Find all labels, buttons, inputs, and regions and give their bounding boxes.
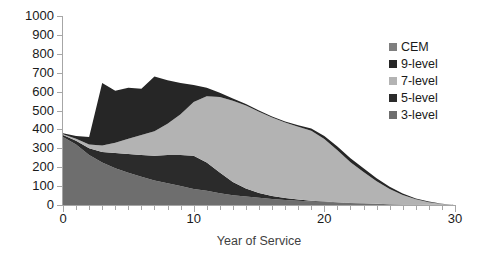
chart-legend: CEM9-level7-level5-level3-level <box>389 40 438 122</box>
y-tick-label: 1000 <box>2 9 54 22</box>
y-tick-mark <box>57 111 62 112</box>
y-tick-label: 700 <box>2 66 54 79</box>
legend-item-label: 5-level <box>401 92 438 105</box>
x-tick-mark-minor <box>141 206 142 210</box>
y-tick-label: 900 <box>2 28 54 41</box>
y-tick-label: 300 <box>2 141 54 154</box>
y-tick-label: 100 <box>2 179 54 192</box>
y-tick-label: 0 <box>2 198 54 211</box>
legend-item-label: 9-level <box>401 58 438 71</box>
x-tick-mark-minor <box>76 206 77 210</box>
legend-item-5-level: 5-level <box>389 91 438 105</box>
y-tick-mark <box>57 186 62 187</box>
x-tick-label: 30 <box>435 212 475 225</box>
y-tick-mark <box>57 129 62 130</box>
x-tick-mark-minor <box>115 206 116 210</box>
x-tick-mark-minor <box>233 206 234 210</box>
legend-item-7-level: 7-level <box>389 74 438 88</box>
y-tick-mark <box>57 92 62 93</box>
legend-item-9-level: 9-level <box>389 57 438 71</box>
y-tick-mark <box>57 16 62 17</box>
y-tick-label: 200 <box>2 160 54 173</box>
legend-swatch-icon <box>389 111 397 119</box>
x-tick-mark-minor <box>246 206 247 210</box>
legend-swatch-icon <box>389 94 397 102</box>
x-tick-mark-minor <box>377 206 378 210</box>
legend-item-cem: CEM <box>389 40 438 54</box>
x-tick-mark-minor <box>102 206 103 210</box>
x-tick-mark-minor <box>337 206 338 210</box>
legend-swatch-icon <box>389 43 397 51</box>
x-tick-mark-minor <box>259 206 260 210</box>
x-axis-title: Year of Service <box>63 234 455 248</box>
legend-item-3-level: 3-level <box>389 108 438 122</box>
x-tick-mark-minor <box>272 206 273 210</box>
x-tick-label: 20 <box>304 212 344 225</box>
y-tick-mark <box>57 35 62 36</box>
y-tick-mark <box>57 73 62 74</box>
y-tick-mark <box>57 167 62 168</box>
x-tick-mark-minor <box>442 206 443 210</box>
x-tick-mark-minor <box>390 206 391 210</box>
x-tick-mark-minor <box>181 206 182 210</box>
x-tick-mark-minor <box>128 206 129 210</box>
x-tick-mark-minor <box>403 206 404 210</box>
x-tick-mark-minor <box>168 206 169 210</box>
x-tick-label: 10 <box>174 212 214 225</box>
x-tick-mark-minor <box>220 206 221 210</box>
legend-item-label: CEM <box>401 41 429 54</box>
y-tick-mark <box>57 148 62 149</box>
y-tick-mark <box>57 205 62 206</box>
legend-swatch-icon <box>389 77 397 85</box>
x-tick-mark-minor <box>416 206 417 210</box>
y-axis-line <box>62 16 63 206</box>
x-tick-mark-minor <box>207 206 208 210</box>
chart-figure: 01002003004005006007008009001000 0102030… <box>0 0 481 270</box>
x-tick-mark-minor <box>429 206 430 210</box>
x-tick-mark-minor <box>298 206 299 210</box>
x-tick-mark-minor <box>154 206 155 210</box>
y-tick-label: 600 <box>2 85 54 98</box>
legend-swatch-icon <box>389 60 397 68</box>
x-tick-mark-minor <box>285 206 286 210</box>
x-tick-mark-minor <box>350 206 351 210</box>
y-tick-label: 400 <box>2 122 54 135</box>
y-tick-label: 500 <box>2 104 54 117</box>
x-tick-mark-minor <box>89 206 90 210</box>
x-tick-label: 0 <box>43 212 83 225</box>
legend-item-label: 7-level <box>401 75 438 88</box>
y-tick-label: 800 <box>2 47 54 60</box>
legend-item-label: 3-level <box>401 109 438 122</box>
x-tick-mark-minor <box>311 206 312 210</box>
x-tick-mark-minor <box>364 206 365 210</box>
y-tick-mark <box>57 54 62 55</box>
